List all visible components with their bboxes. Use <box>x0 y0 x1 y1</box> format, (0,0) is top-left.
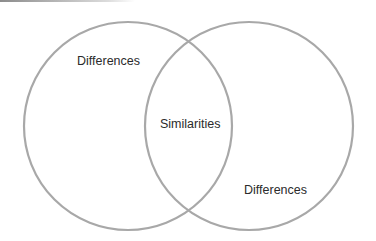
left-differences-label: Differences <box>77 55 140 68</box>
right-differences-label: Differences <box>244 184 307 197</box>
similarities-label: Similarities <box>160 118 220 131</box>
